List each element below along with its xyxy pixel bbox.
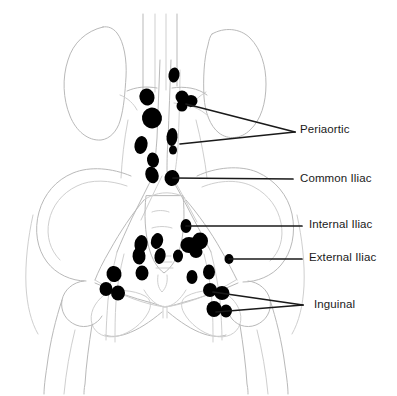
lymph-node-periaortic bbox=[167, 67, 180, 84]
lymph-node-internal-iliac bbox=[173, 250, 183, 263]
label-internal-iliac: Internal Iliac bbox=[309, 219, 372, 231]
lymph-node-internal-iliac bbox=[149, 232, 165, 251]
lymph-node-diagram: PeriaorticCommon IliacInternal IliacExte… bbox=[0, 0, 397, 396]
label-inguinal: Inguinal bbox=[314, 299, 355, 311]
lymph-node-periaortic bbox=[140, 106, 163, 130]
lymph-node-external-iliac bbox=[187, 270, 198, 284]
sacral-foramen-2 bbox=[152, 227, 172, 229]
anatomy-outlines bbox=[26, 14, 304, 394]
lymph-node-common-iliac bbox=[143, 165, 161, 185]
leader-line-common-iliac bbox=[173, 178, 293, 179]
left-ilium-wing bbox=[37, 169, 131, 281]
lymph-node-inguinal bbox=[111, 286, 125, 301]
lymph-node-periaortic bbox=[138, 87, 157, 107]
right-ilium-wing bbox=[197, 168, 294, 282]
right-femur-shaft-inner bbox=[240, 325, 248, 394]
lymph-node-inguinal bbox=[100, 282, 113, 296]
left-femur-mid bbox=[64, 330, 75, 394]
right-common-iliac-vein bbox=[173, 178, 197, 222]
leader-line-periaortic bbox=[186, 104, 295, 132]
label-external-iliac: External Iliac bbox=[309, 252, 376, 264]
left-femur-shaft-inner bbox=[84, 325, 92, 394]
left-ilium-inner bbox=[48, 181, 127, 260]
left-body-wall bbox=[26, 215, 38, 334]
anatomy-svg bbox=[0, 0, 397, 396]
label-common-iliac: Common Iliac bbox=[300, 173, 372, 185]
lymph-node-periaortic bbox=[177, 101, 188, 112]
lymph-node-external-iliac bbox=[203, 265, 215, 280]
coccyx-outline bbox=[158, 275, 168, 292]
lymph-node-periaortic bbox=[133, 135, 149, 155]
lymph-node-inguinal bbox=[207, 301, 222, 317]
right-femur-mid bbox=[257, 330, 268, 394]
left-kidney-outline bbox=[64, 27, 126, 140]
lymph-node-periaortic bbox=[169, 146, 177, 155]
left-psoas-border bbox=[121, 120, 128, 178]
lymph-node-internal-iliac bbox=[190, 246, 203, 258]
pubic-symphysis bbox=[163, 306, 167, 318]
right-femur-shaft-outer bbox=[270, 300, 288, 394]
right-ilium-inner bbox=[202, 181, 282, 261]
lymph-node-external-iliac bbox=[105, 265, 123, 283]
leader-line-periaortic bbox=[180, 132, 295, 144]
sacral-foramen-1 bbox=[152, 211, 169, 213]
left-inferior-pubic-ramus bbox=[105, 312, 162, 336]
right-psoas-border bbox=[196, 120, 207, 178]
lymph-node-layer bbox=[100, 67, 234, 318]
left-femur-shaft-outer bbox=[44, 300, 62, 394]
lymph-node-periaortic bbox=[146, 152, 160, 169]
label-periaortic: Periaortic bbox=[300, 124, 350, 136]
lymph-node-external-iliac bbox=[136, 266, 149, 281]
